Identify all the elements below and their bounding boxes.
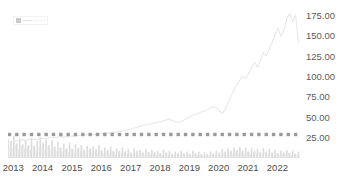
y-tick-label: 125.00 xyxy=(306,52,335,62)
marker xyxy=(206,133,209,136)
bar xyxy=(104,147,106,158)
bar xyxy=(219,152,221,158)
bar xyxy=(42,143,44,158)
chart-canvas xyxy=(8,6,300,158)
bar xyxy=(92,147,94,158)
bar xyxy=(230,151,232,158)
bar xyxy=(233,147,235,158)
bar xyxy=(260,152,262,158)
bar xyxy=(78,147,80,158)
bar xyxy=(204,152,206,158)
bar xyxy=(110,147,112,158)
bar xyxy=(257,149,259,158)
bar xyxy=(251,148,253,158)
bar xyxy=(195,153,197,158)
bar xyxy=(119,151,121,158)
marker xyxy=(243,133,246,136)
bar xyxy=(166,152,168,158)
marker xyxy=(15,133,18,136)
bar xyxy=(133,148,135,158)
x-tick-label: 2021 xyxy=(238,162,259,173)
bar xyxy=(75,144,77,158)
bar xyxy=(57,142,59,158)
chart-container: --- --- 175.00150.00125.00100.0075.0050.… xyxy=(0,0,351,186)
marker xyxy=(279,133,282,136)
bar xyxy=(157,151,159,158)
bar xyxy=(98,145,100,158)
x-tick-label: 2018 xyxy=(149,162,170,173)
bar xyxy=(198,152,200,158)
marker xyxy=(81,133,84,136)
bar xyxy=(221,149,223,158)
x-tick-label: 2016 xyxy=(91,162,112,173)
bar xyxy=(86,146,88,158)
x-tick-label: 2013 xyxy=(3,162,24,173)
marker xyxy=(265,133,268,136)
marker xyxy=(118,133,121,136)
legend-line-icon xyxy=(23,20,32,21)
marker xyxy=(228,133,231,136)
plot-area xyxy=(8,6,300,158)
bar xyxy=(265,152,267,158)
bar xyxy=(172,154,174,158)
marker xyxy=(221,133,224,136)
bar xyxy=(148,152,150,158)
marker xyxy=(132,133,135,136)
bar xyxy=(130,152,132,158)
bar xyxy=(292,151,294,158)
bar xyxy=(51,140,53,158)
bar xyxy=(116,148,118,158)
marker xyxy=(155,133,158,136)
bar xyxy=(268,149,270,158)
bar xyxy=(174,152,176,158)
bar xyxy=(34,146,36,158)
marker xyxy=(74,133,77,136)
bar xyxy=(145,149,147,158)
bar xyxy=(136,151,138,158)
bar xyxy=(201,154,203,158)
x-tick-label: 2019 xyxy=(179,162,200,173)
marker xyxy=(88,133,91,136)
bar xyxy=(213,153,215,158)
marker xyxy=(59,133,62,136)
bar xyxy=(283,152,285,158)
bar xyxy=(69,143,71,158)
marker xyxy=(52,133,55,136)
y-tick-label: 25.00 xyxy=(306,133,330,143)
bar xyxy=(95,149,97,158)
bar xyxy=(280,151,282,158)
bar xyxy=(236,150,238,158)
bar xyxy=(271,152,273,158)
bar xyxy=(151,150,153,158)
marker xyxy=(235,133,238,136)
bar xyxy=(107,150,109,158)
marker xyxy=(37,133,40,136)
bar xyxy=(227,148,229,158)
marker xyxy=(213,133,216,136)
bar xyxy=(245,147,247,158)
bar xyxy=(254,151,256,158)
bar xyxy=(286,150,288,158)
marker xyxy=(177,133,180,136)
marker xyxy=(30,133,33,136)
bar xyxy=(242,151,244,158)
bar xyxy=(298,152,300,158)
marker xyxy=(162,133,165,136)
bar xyxy=(31,138,33,158)
bar xyxy=(72,149,74,158)
marker xyxy=(96,133,99,136)
bar xyxy=(16,143,18,158)
bar xyxy=(84,150,86,158)
legend-label: --- --- xyxy=(34,18,45,23)
bar xyxy=(224,152,226,158)
marker-series xyxy=(8,133,297,136)
bar xyxy=(289,153,291,158)
bar xyxy=(277,153,279,158)
bar xyxy=(154,152,156,158)
bar xyxy=(113,152,115,158)
bar xyxy=(163,150,165,158)
bar xyxy=(207,154,209,158)
marker xyxy=(272,133,275,136)
bar xyxy=(39,137,41,158)
marker xyxy=(287,133,290,136)
